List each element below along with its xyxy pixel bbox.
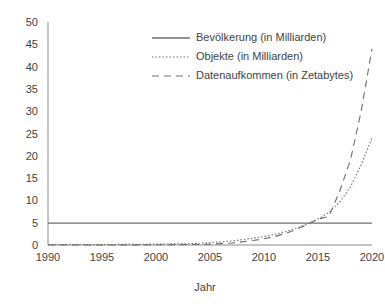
y-tick-label: 45 (26, 38, 38, 50)
x-tick-label: 2010 (252, 251, 276, 263)
y-tick-label: 10 (26, 194, 38, 206)
y-tick-label: 30 (26, 105, 38, 117)
y-axis-tick-labels: 05101520253035404550 (26, 16, 38, 251)
y-tick-label: 15 (26, 172, 38, 184)
x-axis-title: Jahr (194, 281, 216, 293)
x-tick-label: 2015 (306, 251, 330, 263)
y-tick-label: 20 (26, 150, 38, 162)
x-tick-label: 2020 (360, 251, 384, 263)
chart-canvas: 05101520253035404550 1990199520002005201… (0, 0, 385, 304)
y-tick-label: 0 (32, 239, 38, 251)
x-tick-label: 1990 (36, 251, 60, 263)
x-tick-label: 2000 (144, 251, 168, 263)
x-axis-tick-labels: 1990199520002005201020152020 (36, 251, 384, 263)
y-tick-label: 25 (26, 128, 38, 140)
chart-legend: Bevölkerung (in Milliarden)Objekte (in M… (152, 31, 353, 81)
series-line-2 (48, 138, 372, 245)
legend-label-1: Bevölkerung (in Milliarden) (196, 31, 326, 43)
y-tick-label: 50 (26, 16, 38, 28)
y-tick-label: 40 (26, 61, 38, 73)
y-tick-label: 5 (32, 217, 38, 229)
x-tick-label: 1995 (90, 251, 114, 263)
legend-label-3: Datenaufkommen (in Zetabytes) (196, 69, 353, 81)
line-chart: 05101520253035404550 1990199520002005201… (0, 0, 385, 304)
legend-label-2: Objekte (in Milliarden) (196, 50, 303, 62)
y-tick-label: 35 (26, 83, 38, 95)
x-tick-label: 2005 (198, 251, 222, 263)
